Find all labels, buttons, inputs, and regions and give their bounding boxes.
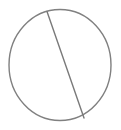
figure-canvas bbox=[0, 0, 121, 130]
geometry-figure-svg bbox=[0, 0, 121, 130]
figure-background bbox=[0, 0, 121, 130]
